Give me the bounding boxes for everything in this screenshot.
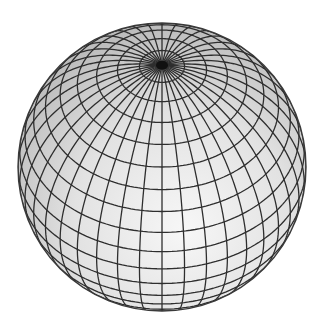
figure-container (0, 0, 323, 333)
wireframe-sphere (0, 0, 323, 333)
north-pole-marker (156, 61, 168, 70)
